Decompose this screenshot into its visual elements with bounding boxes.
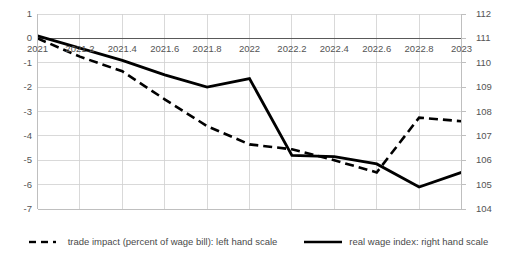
x-tick-0: 2021 bbox=[27, 44, 48, 54]
legend-swatch-solid bbox=[303, 238, 343, 246]
x-tick-5: 2022 bbox=[239, 44, 260, 54]
x-tick-6: 2022.2 bbox=[277, 44, 306, 54]
x-tick-4: 2021.8 bbox=[193, 44, 222, 54]
chart-container: 10-1-2-3-4-5-6-7 11211111010910810710610… bbox=[0, 0, 516, 265]
legend-label-real-wage-index: real wage index: right hand scale bbox=[349, 236, 488, 247]
chart-legend: trade impact (percent of wage bill): lef… bbox=[0, 236, 516, 247]
x-tick-10: 2023 bbox=[451, 44, 472, 54]
x-tick-2: 2021.4 bbox=[108, 44, 137, 54]
legend-swatch-dashed bbox=[28, 238, 62, 246]
legend-label-trade-impact: trade impact (percent of wage bill): lef… bbox=[68, 236, 278, 247]
x-tick-8: 2022.6 bbox=[362, 44, 391, 54]
x-axis: 20212021.22021.42021.62021.820222022.220… bbox=[0, 0, 516, 265]
legend-item-trade-impact: trade impact (percent of wage bill): lef… bbox=[28, 236, 278, 247]
x-tick-1: 2021.2 bbox=[65, 44, 94, 54]
x-tick-7: 2022.4 bbox=[320, 44, 349, 54]
legend-item-real-wage-index: real wage index: right hand scale bbox=[303, 236, 488, 247]
x-tick-3: 2021.6 bbox=[150, 44, 179, 54]
x-tick-9: 2022.8 bbox=[405, 44, 434, 54]
